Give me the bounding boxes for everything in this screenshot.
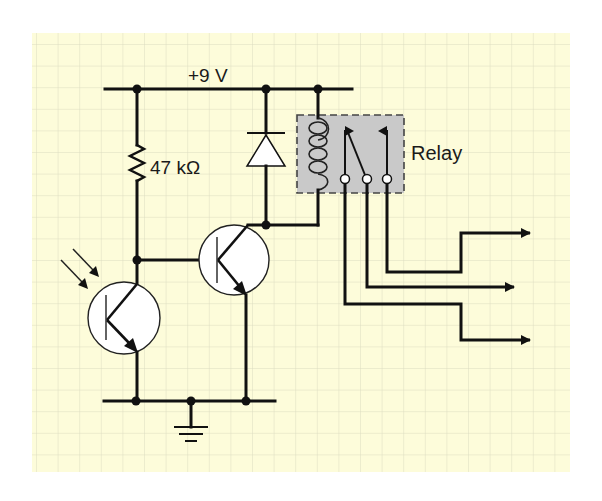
supply-voltage-label: +9 V bbox=[188, 65, 228, 86]
circuit-diagram: +9 V 47 kΩ bbox=[0, 0, 602, 501]
graph-paper-background bbox=[32, 33, 570, 472]
relay-label: Relay bbox=[411, 142, 462, 164]
resistor-value-label: 47 kΩ bbox=[150, 157, 200, 178]
